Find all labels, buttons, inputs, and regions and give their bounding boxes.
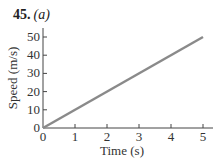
y-tick-label: 40 <box>27 47 40 62</box>
speed-line <box>43 37 203 128</box>
x-axis-label: Time (s) <box>100 143 144 158</box>
y-tick-label: 20 <box>27 84 40 99</box>
x-tick-label: 4 <box>168 129 175 144</box>
x-tick-label: 1 <box>72 129 79 144</box>
y-axis-label: Speed (m/s) <box>5 47 20 109</box>
x-tick-label: 2 <box>104 129 111 144</box>
y-tick-label: 0 <box>34 120 41 135</box>
y-tick-label: 50 <box>27 29 40 44</box>
y-tick-label: 10 <box>27 102 40 117</box>
x-tick-label: 5 <box>200 129 207 144</box>
speed-time-chart: 01234501020304050Time (s)Speed (m/s) <box>0 0 223 160</box>
x-tick-label: 3 <box>136 129 143 144</box>
x-tick-label: 0 <box>40 129 47 144</box>
y-tick-label: 30 <box>27 65 40 80</box>
